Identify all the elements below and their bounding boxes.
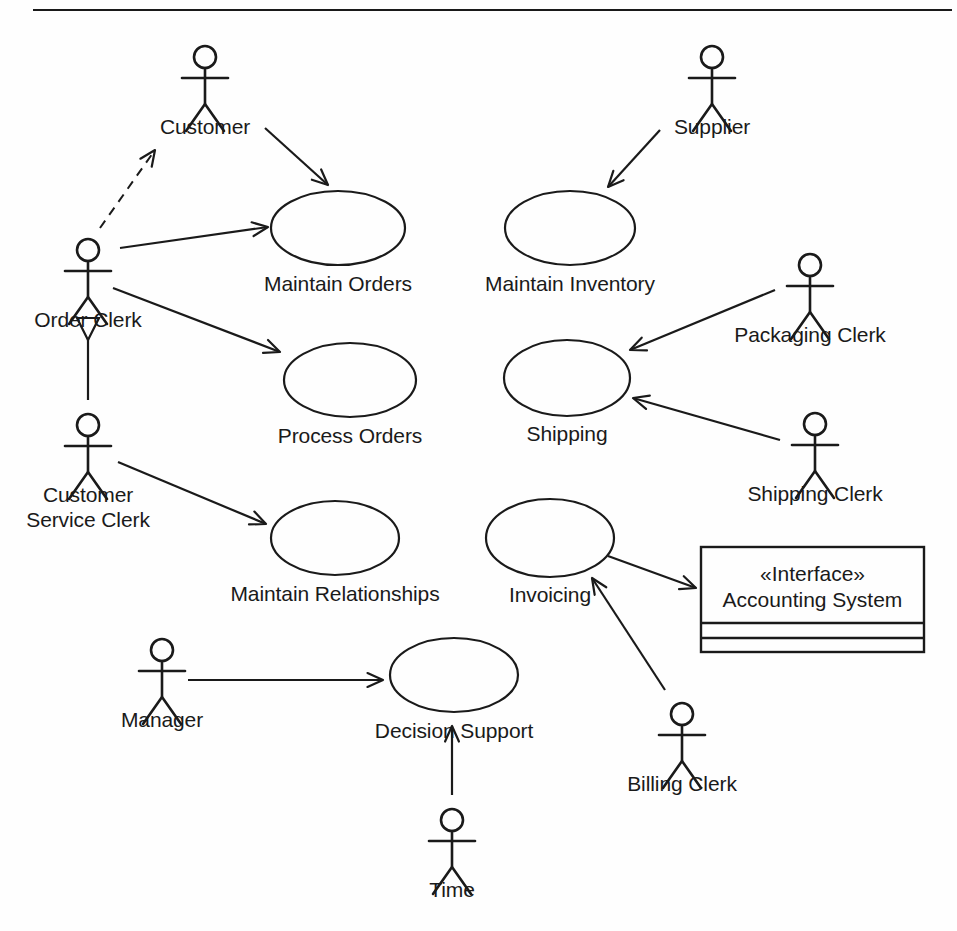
actor-head-icon [194, 46, 216, 68]
use-case-diagram-page: Maintain OrdersMaintain InventoryProcess… [0, 0, 957, 931]
association-order-clerk-to-customer[interactable] [100, 150, 155, 228]
use-case-maintain-orders[interactable] [271, 191, 405, 265]
open-arrowhead-icon [592, 578, 606, 595]
use-case-label-shipping: Shipping [527, 421, 608, 446]
use-case-process-orders[interactable] [284, 343, 416, 417]
actor-head-icon [804, 413, 826, 435]
actor-head-icon [671, 703, 693, 725]
use-case-label-maintain-orders: Maintain Orders [264, 271, 412, 296]
association-line [608, 556, 696, 588]
actor-head-icon [77, 239, 99, 261]
actor-label-billing-clerk: Billing Clerk [627, 771, 737, 796]
actor-label-supplier: Supplier [674, 114, 750, 139]
actor-head-icon [77, 414, 99, 436]
actor-label-packaging-clerk: Packaging Clerk [734, 322, 885, 347]
association-line [265, 128, 328, 185]
association-order-clerk-to-maintain-orders[interactable] [120, 222, 268, 248]
use-case-shipping[interactable] [504, 340, 630, 416]
use-case-decision-support[interactable] [390, 638, 518, 712]
interface-name: Accounting System [701, 587, 924, 613]
actor-head-icon [151, 639, 173, 661]
actor-label-customer-service-clerk: CustomerService Clerk [26, 482, 150, 532]
association-line [120, 227, 268, 248]
interface-stereotype: «Interface» [701, 561, 924, 587]
actor-head-icon [701, 46, 723, 68]
association-billing-clerk-to-invoicing[interactable] [592, 578, 665, 690]
association-customer-to-maintain-orders[interactable] [265, 128, 328, 185]
actor-head-icon [441, 809, 463, 831]
use-case-label-process-orders: Process Orders [278, 423, 422, 448]
association-line [592, 578, 665, 690]
diagram-canvas [0, 0, 957, 931]
actor-label-customer: Customer [160, 114, 250, 139]
use-case-maintain-relationships[interactable] [271, 501, 399, 575]
actor-label-manager: Manager [121, 707, 203, 732]
actor-label-line: Customer [26, 482, 150, 507]
association-shipping-clerk-to-shipping[interactable] [633, 396, 780, 440]
use-case-ellipse-layer [271, 191, 635, 712]
association-line [100, 150, 155, 228]
actor-label-shipping-clerk: Shipping Clerk [747, 481, 882, 506]
use-case-maintain-inventory[interactable] [505, 191, 635, 265]
association-invoicing-to-accounting-system[interactable] [608, 556, 696, 589]
association-manager-to-decision-support[interactable] [188, 673, 383, 687]
actor-label-time: Time [429, 877, 475, 902]
use-case-invoicing[interactable] [486, 499, 614, 577]
actor-head-icon [799, 254, 821, 276]
association-supplier-to-maintain-inventory[interactable] [608, 130, 660, 187]
use-case-label-maintain-relationships: Maintain Relationships [230, 581, 439, 606]
use-case-label-maintain-inventory: Maintain Inventory [485, 271, 655, 296]
interface-box-text: «Interface»Accounting System [701, 561, 924, 613]
association-line [633, 398, 780, 440]
actor-label-line: Service Clerk [26, 507, 150, 532]
association-line [608, 130, 660, 187]
use-case-label-decision-support: Decision Support [375, 718, 533, 743]
use-case-label-invoicing: Invoicing [509, 582, 591, 607]
actor-label-order-clerk: Order Clerk [34, 307, 141, 332]
open-arrowhead-icon [140, 150, 155, 167]
